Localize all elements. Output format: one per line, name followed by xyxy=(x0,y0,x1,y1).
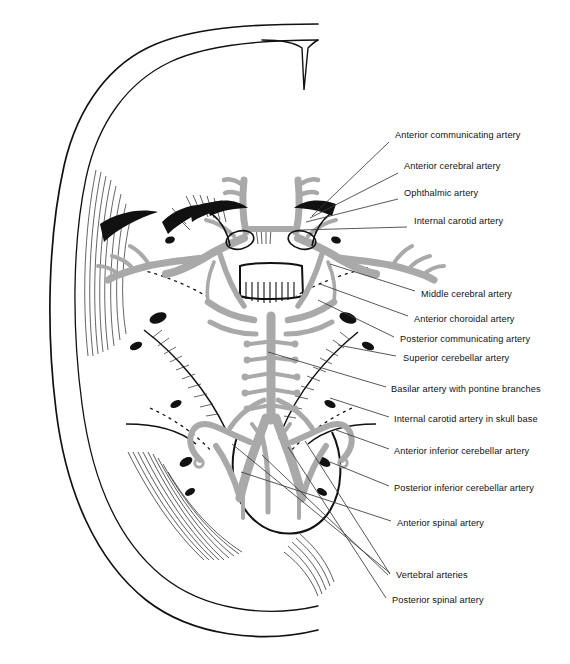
carotid-siphon-shadows xyxy=(206,201,336,216)
anterior-inferior-cerebellar-artery-left xyxy=(230,400,264,428)
label-internal-carotid-artery-in-skull-base: Internal carotid artery in skull base xyxy=(394,414,538,424)
occipital-hatching xyxy=(284,534,334,596)
falx-notch xyxy=(262,40,318,90)
leader-line-posterior-spinal-artery xyxy=(288,447,386,598)
brain-arteries-illustration xyxy=(0,0,570,664)
label-internal-carotid-artery: Internal carotid artery xyxy=(414,216,503,226)
leader-line-anterior-communicating-artery xyxy=(312,142,389,216)
diploe-hatching-posterior xyxy=(128,452,242,560)
label-posterior-inferior-cerebellar-artery: Posterior inferior cerebellar artery xyxy=(394,483,534,493)
anterior-choroidal-artery-right xyxy=(328,262,335,302)
label-anterior-cerebral-artery: Anterior cerebral artery xyxy=(404,161,500,171)
leader-line-posterior-communicating-artery xyxy=(318,300,394,337)
label-anterior-spinal-artery: Anterior spinal artery xyxy=(397,518,484,528)
label-basilar-artery-with-pontine-branches: Basilar artery with pontine branches xyxy=(391,384,541,394)
skull-inner-table xyxy=(75,40,318,611)
skull-outline-group xyxy=(50,24,318,637)
leader-line-anterior-cerebral-artery xyxy=(310,173,398,218)
anterior-spinal-artery xyxy=(262,436,268,512)
label-posterior-spinal-artery: Posterior spinal artery xyxy=(392,595,484,605)
skull-outer-contour xyxy=(50,24,318,637)
superior-cerebellar-artery-left xyxy=(210,322,256,334)
label-ophthalmic-artery: Ophthalmic artery xyxy=(404,188,478,198)
superior-cerebellar-artery-right xyxy=(286,322,332,334)
label-middle-cerebral-artery: Middle cerebral artery xyxy=(421,289,512,299)
label-superior-cerebellar-artery: Superior cerebellar artery xyxy=(403,353,509,363)
label-anterior-communicating-artery: Anterior communicating artery xyxy=(395,130,520,140)
label-anterior-choroidal-artery: Anterior choroidal artery xyxy=(414,314,515,324)
vertebral-artery-loop-left xyxy=(216,446,240,498)
leader-line-basilar-artery-with-pontine-branches xyxy=(268,352,386,387)
figure-canvas: Anterior communicating arteryAnterior ce… xyxy=(0,0,570,664)
label-anterior-inferior-cerebellar-artery: Anterior inferior cerebellar artery xyxy=(394,446,529,456)
label-posterior-communicating-artery: Posterior communicating artery xyxy=(400,334,530,344)
posterior-cerebral-artery-left xyxy=(208,302,254,320)
arteries-group xyxy=(98,179,444,518)
leader-line-anterior-spinal-artery xyxy=(241,472,391,521)
leader-line-anterior-inferior-cerebellar-artery xyxy=(336,430,389,449)
anterior-choroidal-artery-left xyxy=(207,262,214,302)
label-vertebral-arteries: Vertebral arteries xyxy=(396,570,468,580)
sella-hatching xyxy=(246,282,294,303)
